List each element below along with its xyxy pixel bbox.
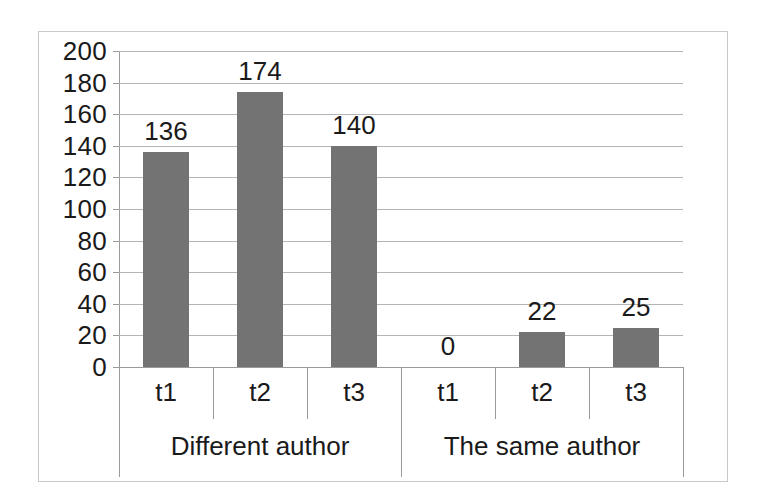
group-label: The same author xyxy=(402,433,682,459)
value-axis-tick xyxy=(113,304,119,305)
value-axis-tick xyxy=(113,209,119,210)
value-axis-tick-label: 0 xyxy=(92,354,107,380)
value-axis-tick-label: 120 xyxy=(63,164,107,190)
category-label: t1 xyxy=(398,379,498,405)
value-axis-tick xyxy=(113,83,119,84)
value-axis-tick xyxy=(113,335,119,336)
value-axis-tick-label: 180 xyxy=(63,70,107,96)
gridline xyxy=(119,83,683,84)
value-axis-tick-label: 140 xyxy=(63,133,107,159)
bar-value-label: 136 xyxy=(116,118,216,144)
gridline xyxy=(119,177,683,178)
chart-screenshot: 200180160140120100806040200 136174140022… xyxy=(0,0,760,504)
bar-value-label: 22 xyxy=(492,298,592,324)
value-axis-tick xyxy=(113,177,119,178)
bar-value-label: 174 xyxy=(210,58,310,84)
group-label: Different author xyxy=(120,433,400,459)
value-axis-tick-label: 200 xyxy=(63,38,107,64)
value-axis-tick-label: 20 xyxy=(77,322,107,348)
bar[interactable] xyxy=(331,146,377,367)
value-axis-tick xyxy=(113,51,119,52)
bar[interactable] xyxy=(519,332,565,367)
value-axis-tick-label: 80 xyxy=(77,228,107,254)
bar-value-label: 0 xyxy=(398,333,498,359)
category-label: t1 xyxy=(116,379,216,405)
gridline xyxy=(119,209,683,210)
bar[interactable] xyxy=(237,92,283,367)
value-axis-tick xyxy=(113,241,119,242)
value-axis-tick-label: 40 xyxy=(77,291,107,317)
value-axis-tick xyxy=(113,272,119,273)
chart-frame: 200180160140120100806040200 136174140022… xyxy=(38,31,728,482)
category-axis: t1t2t3t1t2t3Different authorThe same aut… xyxy=(119,367,683,483)
value-axis-tick xyxy=(113,146,119,147)
bar[interactable] xyxy=(613,328,659,368)
value-axis-labels: 200180160140120100806040200 xyxy=(39,51,107,367)
gridline xyxy=(119,272,683,273)
value-axis-tick xyxy=(113,114,119,115)
category-label: t2 xyxy=(492,379,592,405)
value-axis-tick-label: 60 xyxy=(77,259,107,285)
bar[interactable] xyxy=(143,152,189,367)
category-label: t2 xyxy=(210,379,310,405)
value-axis-tick-label: 160 xyxy=(63,101,107,127)
gridline xyxy=(119,146,683,147)
category-label: t3 xyxy=(304,379,404,405)
gridline xyxy=(119,51,683,52)
plot-area: 13617414002225 xyxy=(119,51,683,367)
gridline xyxy=(119,241,683,242)
bar-value-label: 25 xyxy=(586,294,686,320)
category-label: t3 xyxy=(586,379,686,405)
value-axis-tick-label: 100 xyxy=(63,196,107,222)
bar-value-label: 140 xyxy=(304,112,404,138)
